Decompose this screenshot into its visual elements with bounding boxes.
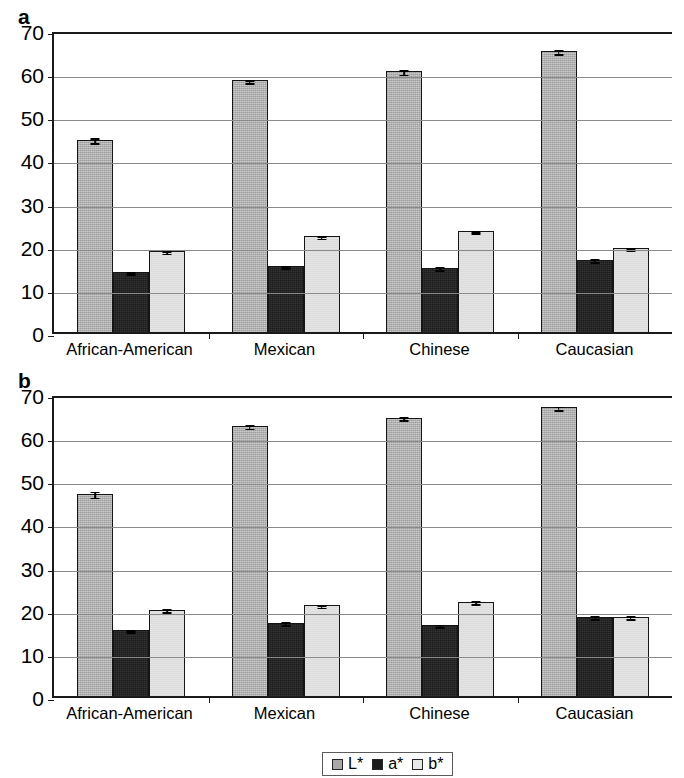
bar-cluster — [363, 34, 518, 332]
y-axis-tick — [48, 571, 54, 572]
y-tick-label: 10 — [0, 280, 44, 301]
gridline — [54, 441, 672, 442]
error-bar-cap-top — [400, 417, 409, 419]
x-axis-tick — [518, 332, 519, 339]
error-bar-cap-top — [436, 625, 445, 627]
bar-cluster — [209, 398, 364, 696]
x-axis-category-label: African-American — [52, 340, 207, 358]
y-tick-label: 60 — [0, 65, 44, 86]
error-bar-cap-top — [554, 50, 563, 52]
y-tick-label: 70 — [0, 22, 44, 43]
y-axis-tick — [48, 657, 54, 658]
panel-b-y-axis-labels: 706050403020100 — [0, 396, 44, 698]
bar-group — [54, 398, 209, 696]
y-tick-label: 0 — [0, 688, 44, 709]
x-axis-tick — [363, 332, 364, 339]
y-axis-tick — [48, 34, 54, 35]
gridline — [54, 163, 672, 164]
bar-L-chinese — [386, 418, 422, 696]
y-axis-tick — [48, 336, 54, 337]
error-bar-cap-bottom — [127, 632, 136, 634]
y-tick-label: 0 — [0, 324, 44, 345]
bar-b-chinese — [458, 602, 494, 696]
x-axis-tick — [209, 332, 210, 339]
bar-group — [363, 34, 518, 332]
bar-b-caucasian — [613, 248, 649, 332]
error-bar-cap-bottom — [400, 420, 409, 422]
panel-a-bar-groups — [54, 34, 672, 332]
error-bar-cap-bottom — [554, 54, 563, 56]
y-axis-tick — [48, 700, 54, 701]
bar-group — [363, 398, 518, 696]
bar-b-chinese — [458, 231, 494, 332]
x-axis-category-label: Caucasian — [517, 340, 672, 358]
x-axis-category-label: African-American — [52, 704, 207, 722]
gridline — [54, 527, 672, 528]
bar-a-african-american — [113, 272, 149, 332]
error-bar-cap-bottom — [472, 604, 481, 606]
y-axis-tick — [48, 614, 54, 615]
bar-a-chinese — [422, 625, 458, 696]
panel-b-x-axis-labels: African-AmericanMexicanChineseCaucasian — [52, 704, 672, 722]
bar-a-african-american — [113, 630, 149, 696]
error-bar-cap-top — [436, 267, 445, 269]
panel-b-plot — [52, 396, 672, 698]
figure-canvas: a 706050403020100 African-AmericanMexica… — [0, 0, 684, 778]
y-tick-label: 30 — [0, 558, 44, 579]
error-bar-cap-bottom — [436, 270, 445, 272]
gridline — [54, 293, 672, 294]
gridline — [54, 614, 672, 615]
bar-b-mexican — [304, 605, 340, 696]
bar-a-caucasian — [577, 260, 613, 332]
error-bar-cap-top — [317, 236, 326, 238]
error-bar-cap-bottom — [127, 274, 136, 276]
bar-L-caucasian — [541, 407, 577, 696]
x-axis-category-label: Mexican — [207, 704, 362, 722]
bar-L-african-american — [77, 140, 113, 332]
error-bar-cap-top — [626, 616, 635, 618]
error-bar-cap-bottom — [281, 268, 290, 270]
error-bar-cap-bottom — [245, 429, 254, 431]
bar-group — [518, 34, 673, 332]
error-bar-cap-top — [127, 272, 136, 274]
bar-b-african-american — [149, 610, 185, 696]
error-bar-cap-top — [127, 630, 136, 632]
error-bar-cap-top — [91, 492, 100, 494]
y-tick-label: 20 — [0, 601, 44, 622]
bar-L-mexican — [232, 426, 268, 696]
error-bar-cap-top — [590, 616, 599, 618]
gridline — [54, 77, 672, 78]
error-bar-cap-bottom — [436, 627, 445, 629]
y-axis-tick — [48, 398, 54, 399]
y-axis-tick — [48, 293, 54, 294]
x-axis-tick — [209, 696, 210, 703]
bar-cluster — [518, 398, 673, 696]
gridline — [54, 207, 672, 208]
error-bar-cap-bottom — [590, 619, 599, 621]
legend-item-a: a* — [372, 756, 403, 772]
y-tick-label: 70 — [0, 386, 44, 407]
error-bar-cap-bottom — [554, 410, 563, 412]
y-axis-tick — [48, 527, 54, 528]
bar-group — [518, 398, 673, 696]
error-bar-cap-top — [281, 266, 290, 268]
y-tick-label: 20 — [0, 237, 44, 258]
y-tick-label: 50 — [0, 108, 44, 129]
error-bar-cap-top — [554, 407, 563, 409]
x-axis-tick — [363, 696, 364, 703]
error-bar-cap-bottom — [472, 233, 481, 235]
error-bar-cap-top — [281, 622, 290, 624]
legend-swatch-icon — [332, 759, 343, 770]
error-bar-cap-bottom — [317, 239, 326, 241]
error-bar-cap-bottom — [590, 262, 599, 264]
y-axis-tick — [48, 250, 54, 251]
legend-label: a* — [388, 756, 403, 772]
x-axis-category-label: Mexican — [207, 340, 362, 358]
error-bar-cap-bottom — [317, 608, 326, 610]
panel-b-plot-area: 706050403020100 African-AmericanMexicanC… — [0, 396, 684, 736]
bar-cluster — [54, 398, 209, 696]
error-bar-cap-bottom — [91, 143, 100, 145]
bar-group — [54, 34, 209, 332]
panel-a-plot-area: 706050403020100 African-AmericanMexicanC… — [0, 32, 684, 372]
bar-a-mexican — [268, 623, 304, 696]
